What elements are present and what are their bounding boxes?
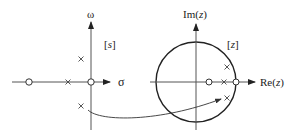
s-plane-pole-icon — [79, 104, 84, 109]
pole-zero-mapping-diagram: σ ω [s] Re(z) Im(z) [z] — [0, 0, 293, 136]
re-z-axis-label: Re(z) — [260, 76, 284, 89]
omega-axis-label: ω — [87, 8, 94, 20]
z-plane-zero-icon — [206, 79, 212, 85]
z-plane-zero-icon — [233, 79, 239, 85]
diagram-canvas: σ ω [s] Re(z) Im(z) [z] — [0, 0, 293, 136]
z-plane: Re(z) Im(z) [z] — [150, 8, 284, 130]
im-z-axis-label: Im(z) — [183, 8, 207, 21]
sigma-axis-label: σ — [118, 75, 125, 89]
s-plane-zero-icon — [26, 79, 32, 85]
z-plane-bracket-label: [z] — [227, 38, 239, 50]
s-plane-zero-icon — [88, 79, 94, 85]
s-plane-pole-icon — [79, 57, 84, 62]
z-plane-pole-icon — [225, 96, 230, 101]
s-plane-bracket-label: [s] — [104, 38, 116, 50]
mapping-arrow — [88, 99, 221, 118]
s-plane: σ ω [s] — [12, 8, 125, 130]
z-plane-pole-icon — [225, 65, 230, 70]
